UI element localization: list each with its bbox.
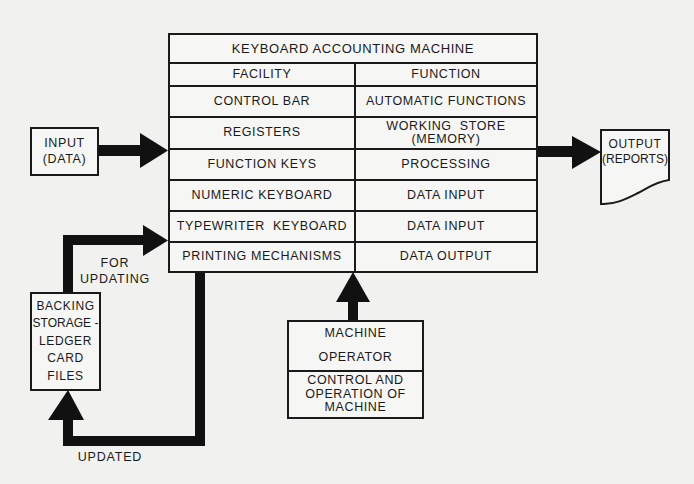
backing-line: LEDGER	[39, 333, 92, 350]
operator-line1: MACHINE	[325, 322, 387, 346]
row-numeric-keyboard-facility: NUMERIC KEYBOARD	[170, 181, 354, 210]
operator-title: MACHINE OPERATOR	[289, 322, 422, 370]
for-updating-label: FOR UPDATING	[75, 256, 155, 287]
backing-line: BACKING	[36, 298, 94, 315]
for-updating-line2: UPDATING	[75, 272, 155, 288]
output-arrow-icon	[537, 136, 601, 169]
input-line2: (DATA)	[43, 153, 86, 166]
row-function-keys-facility: FUNCTION KEYS	[170, 150, 354, 179]
row-function-keys-function: PROCESSING	[356, 150, 536, 179]
output-document: OUTPUT (REPORTS)	[601, 132, 669, 172]
updated-label: UPDATED	[70, 450, 150, 466]
machine-title: KEYBOARD ACCOUNTING MACHINE	[170, 35, 536, 62]
header-function: FUNCTION	[356, 64, 536, 85]
for-updating-line1: FOR	[75, 256, 155, 272]
machine-operator-box: MACHINE OPERATOR CONTROL AND OPERATION O…	[287, 320, 424, 419]
row-typewriter-keyboard-facility: TYPEWRITER KEYBOARD	[170, 212, 354, 241]
input-box: INPUT (DATA)	[30, 127, 99, 176]
operator-desc-line: OPERATION OF	[305, 388, 406, 402]
row-control-bar-function: AUTOMATIC FUNCTIONS	[356, 87, 536, 116]
row-registers-facility: REGISTERS	[170, 118, 354, 148]
operator-desc-line: MACHINE	[325, 401, 387, 415]
row-printing-mechanisms-facility: PRINTING MECHANISMS	[170, 243, 354, 271]
operator-arrow-icon	[336, 272, 370, 321]
row-typewriter-keyboard-function: DATA INPUT	[356, 212, 536, 241]
function-line2: (MEMORY)	[411, 133, 480, 146]
row-registers-function: WORKING STORE (MEMORY)	[356, 118, 536, 148]
row-numeric-keyboard-function: DATA INPUT	[356, 181, 536, 210]
backing-storage-box: BACKING STORAGE - LEDGER CARD FILES	[30, 292, 101, 391]
header-facility: FACILITY	[170, 64, 354, 85]
row-printing-mechanisms-function: DATA OUTPUT	[356, 243, 536, 271]
input-line1: INPUT	[44, 137, 85, 150]
operator-description: CONTROL AND OPERATION OF MACHINE	[289, 372, 422, 417]
operator-desc-line: CONTROL AND	[307, 374, 403, 388]
output-line1: OUTPUT	[609, 138, 662, 151]
backing-line: STORAGE -	[33, 315, 99, 332]
backing-line: FILES	[47, 368, 83, 385]
input-arrow-icon	[98, 133, 168, 168]
machine-table: KEYBOARD ACCOUNTING MACHINE FACILITY FUN…	[168, 33, 538, 273]
output-line2: (REPORTS)	[602, 153, 668, 166]
operator-line2: OPERATOR	[319, 346, 393, 370]
row-control-bar-facility: CONTROL BAR	[170, 87, 354, 116]
backing-line: CARD	[47, 350, 83, 367]
